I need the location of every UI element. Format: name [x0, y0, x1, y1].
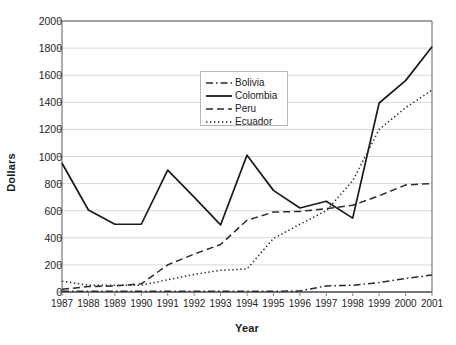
- x-axis-tick-label: 1991: [157, 298, 179, 309]
- x-axis-tick-label: 1993: [209, 298, 231, 309]
- x-axis-tick-label: 1992: [183, 298, 205, 309]
- legend-swatch-bolivia: [205, 78, 233, 88]
- legend-item-bolivia: Bolivia: [205, 76, 287, 89]
- x-axis-tick-labels: 1987198819891990199119921993199419951996…: [0, 0, 456, 345]
- x-axis-tick-label: 1996: [289, 298, 311, 309]
- x-axis-tick-label: 1988: [77, 298, 99, 309]
- legend-item-ecuador: Ecuador: [205, 115, 287, 128]
- x-axis-tick-label: 1987: [51, 298, 73, 309]
- x-axis-tick-label: 2001: [421, 298, 443, 309]
- x-axis-tick-label: 2000: [394, 298, 416, 309]
- legend-swatch-ecuador: [205, 117, 233, 127]
- legend-swatch-colombia: [205, 91, 233, 101]
- legend-label: Colombia: [233, 90, 277, 101]
- x-axis-tick-label: 1998: [342, 298, 364, 309]
- chart-legend: BoliviaColombiaPeruEcuador: [200, 71, 288, 126]
- x-axis-tick-label: 1995: [262, 298, 284, 309]
- x-axis-tick-label: 1999: [368, 298, 390, 309]
- x-axis-tick-label: 1994: [236, 298, 258, 309]
- x-axis-tick-label: 1997: [315, 298, 337, 309]
- legend-item-peru: Peru: [205, 102, 287, 115]
- legend-label: Bolivia: [233, 77, 264, 88]
- x-axis-title: Year: [62, 322, 432, 334]
- legend-swatch-peru: [205, 104, 233, 114]
- legend-label: Peru: [233, 103, 256, 114]
- x-axis-tick-label: 1990: [130, 298, 152, 309]
- y-axis-title: Dollars: [0, 0, 22, 345]
- x-axis-tick-label: 1989: [104, 298, 126, 309]
- legend-label: Ecuador: [233, 116, 272, 127]
- line-chart: 0200400600800100012001400160018002000 19…: [0, 0, 456, 345]
- legend-item-colombia: Colombia: [205, 89, 287, 102]
